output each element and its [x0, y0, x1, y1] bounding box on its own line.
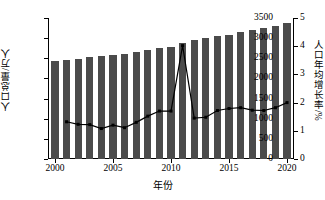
y-axis-right-ticklabel: 4: [300, 41, 305, 50]
x-axis-ticklabel: 2020: [267, 163, 307, 173]
y-axis-right-ticklabel: 5: [300, 13, 305, 22]
line-marker: [193, 117, 196, 120]
line-marker: [251, 109, 254, 112]
line-marker: [204, 116, 207, 119]
y-axis-right-tick: [294, 18, 298, 19]
y-axis-left-tick: [44, 78, 48, 79]
y-axis-right-ticklabel: 0: [300, 154, 305, 163]
y-axis-left-tick: [44, 38, 48, 39]
line-marker: [111, 124, 114, 127]
line-marker: [65, 120, 68, 123]
line-marker: [216, 109, 219, 112]
x-axis-ticklabel: 2010: [151, 163, 191, 173]
y-axis-left-ticklabel: 1000: [254, 114, 273, 123]
population-chart-figure: 人口总量/万人 人口年均增长率/% 年份 0500100015002000250…: [0, 0, 325, 200]
y-axis-left-ticklabel: 1500: [254, 94, 273, 103]
y-axis-left-tick: [44, 159, 48, 160]
y-axis-right-ticklabel: 3: [300, 69, 305, 78]
y-axis-right-tick: [294, 131, 298, 132]
y-axis-right-ticklabel: 2: [300, 98, 305, 107]
line-marker: [135, 121, 138, 124]
x-axis-ticklabel: 2005: [93, 163, 133, 173]
y-axis-left-ticklabel: 500: [259, 134, 273, 143]
y-axis-left-ticklabel: 3500: [254, 13, 273, 22]
y-axis-right-tick: [294, 74, 298, 75]
line-marker: [77, 123, 80, 126]
y-axis-left-title: 人口总量/万人: [0, 48, 13, 111]
line-marker: [274, 106, 277, 109]
line-marker: [158, 110, 161, 113]
line-marker: [123, 126, 126, 129]
line-marker: [262, 109, 265, 112]
y-axis-left-ticklabel: 2000: [254, 73, 273, 82]
line-marker: [286, 101, 289, 104]
y-axis-left-tick: [44, 18, 48, 19]
line-marker: [88, 123, 91, 126]
x-axis-ticklabel: 2015: [209, 163, 249, 173]
y-axis-left-tick: [44, 58, 48, 59]
y-axis-left-tick: [44, 139, 48, 140]
y-axis-left-tick: [44, 99, 48, 100]
y-axis-left-ticklabel: 0: [268, 154, 273, 163]
x-axis-title: 年份: [0, 177, 325, 192]
y-axis-right-title: 人口年均增长率/%: [311, 40, 325, 121]
y-axis-right-tick: [294, 46, 298, 47]
line-marker: [170, 110, 173, 113]
line-marker: [181, 44, 184, 47]
line-marker: [100, 127, 103, 130]
y-axis-right-ticklabel: 1: [300, 126, 305, 135]
y-axis-right-tick: [294, 159, 298, 160]
y-axis-left-tick: [44, 119, 48, 120]
y-axis-left-ticklabel: 2500: [254, 53, 273, 62]
y-axis-left-ticklabel: 3000: [254, 33, 273, 42]
line-marker: [228, 107, 231, 110]
y-axis-right-tick: [294, 103, 298, 104]
x-axis-ticklabel: 2000: [35, 163, 75, 173]
line-marker: [146, 115, 149, 118]
line-marker: [239, 106, 242, 109]
